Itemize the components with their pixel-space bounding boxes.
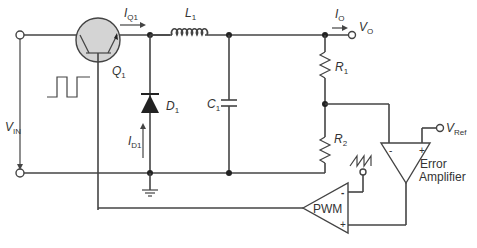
resistor-r1 <box>320 35 330 137</box>
sawtooth-wave-icon <box>350 156 371 166</box>
vin-top-terminal <box>16 31 24 39</box>
c1-label: C1 <box>207 97 221 113</box>
r1-label: R1 <box>335 60 349 76</box>
error-amp-plus: + <box>419 145 425 156</box>
io-arrow <box>332 25 348 31</box>
d1-label: D1 <box>166 99 180 115</box>
iq1-arrow <box>120 22 146 28</box>
pwm-label: PWM <box>313 202 342 216</box>
ramp-terminal <box>360 169 366 175</box>
inductor-l1 <box>150 29 208 35</box>
q1-label: Q1 <box>112 64 126 80</box>
io-label: IO <box>335 7 345 23</box>
square-wave-icon <box>47 77 90 97</box>
resistor-r2 <box>320 137 330 173</box>
ground-icon <box>142 173 158 196</box>
l1-label: L1 <box>185 6 197 22</box>
diode-d1 <box>141 35 159 173</box>
vo-label: VO <box>359 20 373 36</box>
vin-arrow <box>17 39 23 170</box>
r2-label: R2 <box>334 132 348 148</box>
vin-bottom-terminal <box>16 169 24 177</box>
vref-label: VRef <box>446 121 467 137</box>
iq1-label: IQ1 <box>124 6 139 22</box>
pwm-minus: - <box>341 187 344 198</box>
c1-ground-junction <box>226 170 232 176</box>
vin-label: VIN <box>5 120 21 136</box>
error-amp-minus: - <box>389 145 392 156</box>
vref-terminal <box>437 125 444 132</box>
transistor-q1 <box>76 18 120 210</box>
id1-label: ID1 <box>128 134 142 150</box>
capacitor-c1 <box>221 35 237 173</box>
vo-terminal <box>349 32 356 39</box>
buck-converter-diagram: VIN Q1 IQ1 D1 ID1 L1 <box>0 0 477 248</box>
error-amp-label-line2: Amplifier <box>419 170 466 184</box>
pwm-plus: + <box>340 219 346 230</box>
error-amp-label-line1: Error <box>420 157 447 171</box>
